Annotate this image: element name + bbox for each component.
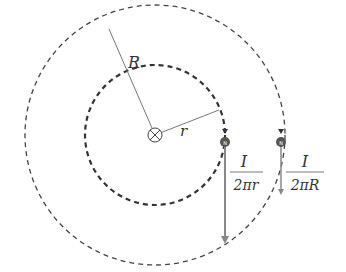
compass-inner-icon: N <box>220 137 230 147</box>
inner-tangent-arrow-icon <box>222 129 228 134</box>
outer-field-numerator: I <box>301 152 309 171</box>
outer-field-arrowhead <box>278 189 284 195</box>
compass-outer-icon: N <box>276 137 286 147</box>
svg-text:N: N <box>223 140 227 146</box>
svg-text:N: N <box>279 140 283 146</box>
current-into-page-icon <box>148 128 162 142</box>
inner-field-numerator: I <box>240 152 248 171</box>
outer-field-denominator: 2πR <box>290 177 320 193</box>
outer-tangent-arrow-icon <box>278 129 284 134</box>
outer-radius-label: R <box>127 53 140 72</box>
outer-radius-line <box>109 29 155 135</box>
inner-field-denominator: 2πr <box>233 177 260 193</box>
magnetic-field-diagram: R r N N I 2πr I 2πR <box>0 0 346 272</box>
inner-radius-label: r <box>180 122 188 140</box>
